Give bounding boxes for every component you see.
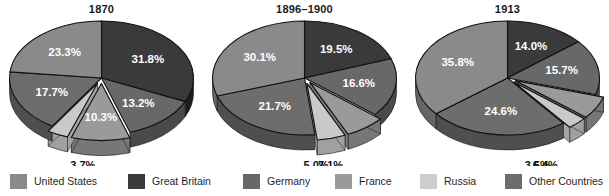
slice-percent-label: 5.0% [303, 159, 328, 166]
slice-percent-label: 3.5% [525, 159, 550, 166]
legend-swatch-icon [335, 174, 352, 189]
slice-percent-label: 10.3% [85, 111, 118, 123]
chart-title: 1870 [0, 3, 203, 15]
chart-cell: 187031.8%13.2%10.3%3.7%17.7%23.3% [0, 0, 203, 166]
chart-cell: 1896–190019.5%16.6%7.1%5.0%21.7%30.1% [203, 0, 406, 166]
legend-label: Other Countries [529, 175, 603, 187]
pie-chart: 19.5%16.6%7.1%5.0%21.7%30.1% [203, 16, 406, 166]
slice-percent-label: 14.0% [515, 40, 548, 52]
slice-percent-label: 24.6% [485, 105, 518, 117]
slice-percent-label: 30.1% [243, 51, 276, 63]
legend-label: Russia [444, 175, 476, 187]
legend-swatch-icon [128, 174, 145, 189]
legend-label: Germany [267, 175, 310, 187]
chart-title: 1913 [406, 3, 609, 15]
legend-item[interactable]: Germany [243, 166, 310, 196]
legend-item[interactable]: Russia [420, 166, 476, 196]
charts-row: 187031.8%13.2%10.3%3.7%17.7%23.3%1896–19… [0, 0, 609, 166]
slice-percent-label: 23.3% [48, 46, 81, 58]
pie-chart: 14.0%15.7%6.4%3.5%24.6%35.8% [406, 16, 609, 166]
slice-percent-label: 35.8% [441, 56, 474, 68]
legend-label: Great Britain [152, 175, 211, 187]
pie-chart-figure: 187031.8%13.2%10.3%3.7%17.7%23.3%1896–19… [0, 0, 609, 196]
slice-percent-label: 21.7% [258, 100, 291, 112]
slice-percent-label: 31.8% [132, 53, 165, 65]
slice-percent-label: 13.2% [122, 97, 155, 109]
legend-item[interactable]: Other Countries [505, 166, 603, 196]
legend-label: United States [34, 175, 97, 187]
slice-percent-label: 15.7% [545, 64, 578, 76]
legend-swatch-icon [10, 174, 27, 189]
chart-cell: 191314.0%15.7%6.4%3.5%24.6%35.8% [406, 0, 609, 166]
slice-percent-label: 3.7% [70, 159, 95, 166]
slice-percent-label: 16.6% [342, 77, 375, 89]
legend-swatch-icon [243, 174, 260, 189]
legend-label: France [359, 175, 392, 187]
legend-swatch-icon [420, 174, 437, 189]
slice-percent-label: 17.7% [35, 86, 68, 98]
pie-chart: 31.8%13.2%10.3%3.7%17.7%23.3% [0, 16, 203, 166]
chart-title: 1896–1900 [203, 3, 406, 15]
legend-item[interactable]: United States [10, 166, 97, 196]
chart-legend: United StatesGreat BritainGermanyFranceR… [0, 166, 609, 196]
slice-percent-label: 19.5% [320, 43, 353, 55]
legend-item[interactable]: France [335, 166, 392, 196]
legend-swatch-icon [505, 174, 522, 189]
legend-item[interactable]: Great Britain [128, 166, 211, 196]
